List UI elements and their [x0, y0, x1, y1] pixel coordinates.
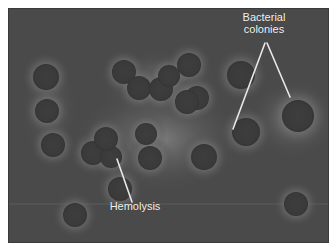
- bacterial-colony: [282, 100, 314, 132]
- bacterial-colony: [135, 123, 157, 145]
- colonies-label-line2: colonies: [224, 23, 304, 35]
- bacterial-colony: [33, 64, 59, 90]
- bacterial-colony: [41, 133, 65, 157]
- bacterial-colony: [191, 144, 217, 170]
- bacterial-colony: [94, 127, 118, 151]
- bacterial-colony: [175, 90, 199, 114]
- bacterial-colonies-label: Bacterial colonies: [224, 11, 304, 35]
- bacterial-colony: [158, 65, 180, 87]
- bacterial-colony: [127, 76, 151, 100]
- colonies-label-line1: Bacterial: [224, 11, 304, 23]
- bacterial-colony: [108, 177, 132, 201]
- bacterial-colony: [35, 99, 59, 123]
- bacterial-colony: [284, 192, 308, 216]
- bacterial-colony: [227, 61, 255, 89]
- hemolysis-label: Hemolysis: [100, 200, 170, 212]
- bacterial-colony: [177, 53, 201, 77]
- bacterial-colony: [63, 203, 87, 227]
- bacterial-colony: [138, 146, 162, 170]
